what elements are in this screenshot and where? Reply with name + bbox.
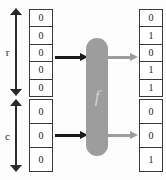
arrow-head-right-icon bbox=[130, 53, 138, 61]
arrow-shaft bbox=[15, 12, 17, 92]
function-label: f bbox=[95, 88, 100, 105]
input-group-r: 0 0 0 0 0 bbox=[29, 9, 53, 97]
measure-arrow-c: c bbox=[2, 99, 24, 172]
output-bit-vector: 0 1 0 1 1 0 0 1 bbox=[139, 0, 163, 180]
bit-cell: 0 bbox=[30, 62, 52, 79]
bit-cell: 0 bbox=[30, 27, 52, 44]
diagram-canvas: r c 0 0 0 0 0 0 0 0 f bbox=[0, 0, 166, 180]
bit-cell: 0 bbox=[30, 148, 52, 171]
bit-cell: 0 bbox=[140, 10, 162, 27]
input-arrow-bottom bbox=[55, 131, 88, 140]
arrow-shaft bbox=[108, 134, 130, 137]
input-group-c: 0 0 0 bbox=[29, 99, 53, 172]
output-arrow-bottom bbox=[108, 131, 138, 140]
arrow-shaft bbox=[15, 103, 17, 168]
input-bit-vector: 0 0 0 0 0 0 0 0 bbox=[29, 0, 53, 180]
arrow-shaft bbox=[55, 134, 80, 137]
output-group-r: 0 1 0 1 1 bbox=[139, 9, 163, 97]
bit-cell: 0 bbox=[140, 124, 162, 148]
output-arrow-top bbox=[108, 53, 138, 62]
measure-arrow-r: r bbox=[2, 8, 24, 96]
arrow-head-right-icon bbox=[130, 131, 138, 139]
output-group-c: 0 0 1 bbox=[139, 99, 163, 172]
input-arrow-top bbox=[55, 53, 88, 62]
function-box: f bbox=[86, 38, 108, 156]
bit-cell: 0 bbox=[30, 80, 52, 96]
bit-cell: 1 bbox=[140, 80, 162, 96]
bit-cell: 1 bbox=[140, 62, 162, 79]
arrow-head-down-icon bbox=[10, 89, 22, 96]
bit-cell: 1 bbox=[140, 27, 162, 44]
bit-cell: 1 bbox=[140, 148, 162, 171]
measure-label-c: c bbox=[2, 130, 13, 141]
bit-cell: 0 bbox=[140, 100, 162, 124]
bit-cell: 0 bbox=[30, 100, 52, 124]
arrow-shaft bbox=[55, 56, 80, 59]
bit-cell: 0 bbox=[140, 45, 162, 62]
arrow-head-down-icon bbox=[10, 165, 22, 172]
arrow-shaft bbox=[108, 56, 130, 59]
measure-label-r: r bbox=[2, 47, 13, 58]
bit-cell: 0 bbox=[30, 45, 52, 62]
bit-cell: 0 bbox=[30, 10, 52, 27]
bit-cell: 0 bbox=[30, 124, 52, 148]
